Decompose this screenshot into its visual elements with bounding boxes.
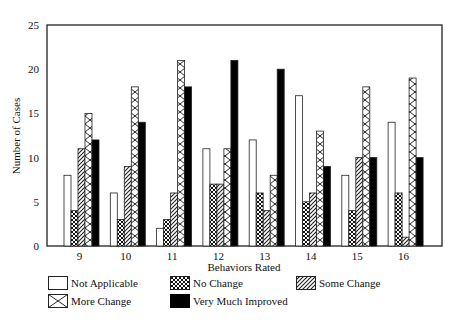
- bar-group-10: [110, 87, 145, 246]
- bar: [124, 166, 131, 246]
- legend-label: Some Change: [319, 277, 380, 289]
- bar: [249, 140, 256, 246]
- bar: [356, 158, 363, 246]
- bar: [178, 60, 185, 246]
- legend-label: Very Much Improved: [193, 295, 288, 307]
- bar-group-9: [64, 113, 99, 246]
- bar-group-16: [388, 78, 423, 246]
- legend-label: No Change: [193, 277, 243, 289]
- x-tick-label: 11: [167, 250, 178, 262]
- bar: [277, 69, 284, 246]
- legend-swatch-icon: [296, 276, 316, 290]
- bar: [402, 237, 409, 246]
- bar-group-13: [249, 69, 284, 246]
- bar: [395, 193, 402, 246]
- bar: [416, 158, 423, 246]
- bar: [117, 219, 124, 246]
- bar: [78, 149, 85, 246]
- bar: [157, 228, 164, 246]
- x-tick-label: 16: [398, 250, 410, 262]
- bar: [217, 184, 224, 246]
- bar: [270, 175, 277, 246]
- legend: Not ApplicableNo ChangeSome ChangeMore C…: [48, 276, 448, 326]
- legend-item: Not Applicable: [48, 276, 138, 290]
- bar: [370, 158, 377, 246]
- x-axis-title: Behaviors Rated: [207, 261, 281, 273]
- legend-swatch-icon: [48, 294, 68, 308]
- bar: [210, 184, 217, 246]
- bar: [131, 87, 138, 246]
- x-tick-label: 15: [352, 250, 364, 262]
- legend-item: No Change: [170, 276, 243, 290]
- legend-label: More Change: [71, 295, 131, 307]
- y-tick-label: 20: [28, 63, 40, 75]
- bar-group-15: [342, 87, 377, 246]
- bar: [185, 87, 192, 246]
- x-tick-label: 9: [77, 250, 83, 262]
- bar: [92, 140, 99, 246]
- bar: [164, 219, 171, 246]
- legend-item: More Change: [48, 294, 131, 308]
- legend-swatch-icon: [170, 276, 190, 290]
- x-tick-label: 14: [306, 250, 318, 262]
- legend-item: Very Much Improved: [170, 294, 288, 308]
- legend-label: Not Applicable: [71, 277, 138, 289]
- y-tick-label: 10: [28, 152, 40, 164]
- bar: [256, 193, 263, 246]
- x-tick-label: 10: [120, 250, 132, 262]
- legend-swatch-icon: [48, 276, 68, 290]
- bar-group-11: [157, 60, 192, 246]
- bar: [303, 202, 310, 246]
- plot-area: 0510152025910111213141516: [28, 19, 442, 262]
- plot-frame: [47, 25, 442, 246]
- bar: [342, 175, 349, 246]
- bar: [224, 149, 231, 246]
- bar: [203, 149, 210, 246]
- y-tick-label: 0: [34, 240, 40, 252]
- bar: [363, 87, 370, 246]
- bar: [263, 211, 270, 246]
- legend-swatch-icon: [170, 294, 190, 308]
- bar: [138, 122, 145, 246]
- y-tick-label: 5: [34, 196, 40, 208]
- bar: [171, 193, 178, 246]
- bar: [349, 211, 356, 246]
- bar: [388, 122, 395, 246]
- bar: [64, 175, 71, 246]
- bar: [110, 193, 117, 246]
- y-tick-label: 15: [28, 107, 40, 119]
- bar-group-14: [296, 96, 331, 246]
- bar-group-12: [203, 60, 238, 246]
- bar: [317, 131, 324, 246]
- bar: [85, 113, 92, 246]
- bar: [71, 211, 78, 246]
- y-axis-title: Number of Cases: [10, 98, 22, 174]
- bar: [231, 60, 238, 246]
- bar: [409, 78, 416, 246]
- bar: [296, 96, 303, 246]
- legend-item: Some Change: [296, 276, 380, 290]
- y-tick-label: 25: [28, 19, 40, 31]
- bar: [310, 193, 317, 246]
- bar: [324, 166, 331, 246]
